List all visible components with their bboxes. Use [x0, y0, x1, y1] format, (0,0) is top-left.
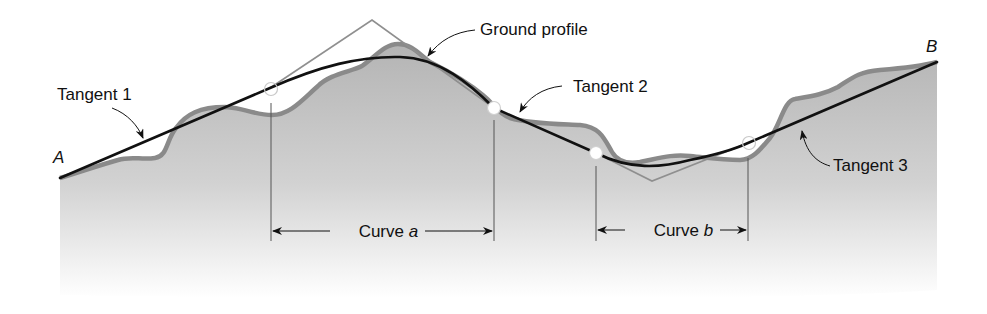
tangent-2-leader-arrow — [520, 86, 562, 112]
ground-profile-label: Ground profile — [480, 20, 588, 39]
ground-fill — [60, 44, 937, 298]
tangent-1-leader-arrow — [112, 108, 143, 138]
curve-a-letter: a — [409, 222, 418, 241]
point-of-tangency-a — [488, 102, 501, 115]
tangent-3-label: Tangent 3 — [833, 156, 908, 175]
ground-profile-leader-arrow — [428, 30, 475, 56]
vertical-curve-diagram: A B Tangent 1 Ground profile Tangent 2 T… — [0, 0, 987, 314]
curve-a-prefix: Curve — [359, 222, 409, 241]
curve-b-label: Curve b — [630, 221, 727, 240]
point-a-label: A — [52, 148, 64, 167]
curve-b-letter: b — [704, 221, 713, 240]
tangent-1-label: Tangent 1 — [57, 85, 132, 104]
point-b-label: B — [926, 37, 937, 56]
point-of-curvature-b — [590, 147, 603, 160]
curve-a-label: Curve a — [335, 222, 432, 241]
curve-b-prefix: Curve — [654, 221, 704, 240]
tangent-2-label: Tangent 2 — [573, 77, 648, 96]
